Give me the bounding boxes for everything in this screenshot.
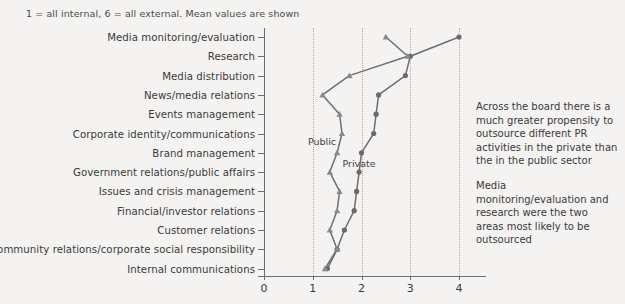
data-point-private — [456, 34, 461, 39]
series-line-private — [327, 37, 459, 269]
category-label: Media distribution — [162, 70, 255, 81]
data-point-private — [342, 227, 347, 232]
series-label-public: Public — [308, 136, 336, 147]
data-point-private — [376, 92, 381, 97]
data-point-public — [339, 130, 345, 136]
data-point-private — [352, 208, 357, 213]
x-tick-label: 0 — [261, 282, 268, 295]
x-tick-label: 1 — [309, 282, 316, 295]
category-label: Media monitoring/evaluation — [107, 32, 255, 43]
data-point-public — [327, 227, 333, 233]
x-tick-label: 3 — [407, 282, 414, 295]
data-point-private — [357, 170, 362, 175]
plot-area: 01234 PublicPrivate — [258, 28, 486, 278]
data-point-public — [334, 208, 340, 214]
category-label: Community relations/corporate social res… — [0, 244, 255, 255]
category-label: Corporate identity/communications — [73, 128, 255, 139]
series-line-public — [323, 37, 408, 269]
commentary-paragraph: Media monitoring/evaluation and research… — [476, 179, 618, 247]
data-point-private — [371, 131, 376, 136]
category-label: News/media relations — [144, 89, 255, 100]
commentary-paragraph: Across the board there is a much greater… — [476, 100, 618, 168]
category-label: Issues and crisis management — [99, 186, 255, 197]
category-label: Internal communications — [127, 263, 255, 274]
category-label: Events management — [148, 109, 255, 120]
data-point-public — [327, 169, 333, 175]
data-point-public — [336, 188, 342, 194]
category-label: Customer relations — [157, 225, 255, 236]
x-tick-label: 4 — [456, 282, 463, 295]
chart-page: 1 = all internal, 6 = all external. Mean… — [0, 0, 625, 304]
category-axis-labels: Media monitoring/evaluationResearchMedia… — [0, 0, 258, 304]
data-point-private — [374, 112, 379, 117]
category-label: Financial/investor relations — [117, 205, 255, 216]
x-tick-label: 2 — [358, 282, 365, 295]
series-plot — [258, 28, 486, 278]
category-label: Research — [208, 51, 255, 62]
data-point-private — [354, 189, 359, 194]
data-point-private — [403, 73, 408, 78]
commentary-text: Across the board there is a much greater… — [476, 100, 618, 247]
data-point-private — [359, 150, 364, 155]
category-label: Brand management — [152, 147, 255, 158]
data-point-public — [334, 150, 340, 156]
series-label-private: Private — [342, 158, 375, 169]
category-label: Government relations/public affairs — [73, 167, 255, 178]
data-point-public — [383, 34, 389, 40]
